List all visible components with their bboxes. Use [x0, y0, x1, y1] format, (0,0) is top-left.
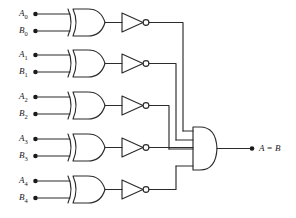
and-gate-body [193, 127, 217, 170]
xor-body-2 [73, 92, 105, 119]
wire-inv1-to-and [149, 64, 176, 141]
xor-body-0 [73, 9, 105, 36]
input-label-b1: B1 [19, 67, 28, 78]
terminal-dot-b1 [33, 70, 38, 75]
terminal-dot-a4 [33, 179, 38, 184]
input-label-b3: B3 [19, 151, 28, 162]
input-label-b2: B2 [19, 109, 28, 120]
circuit-canvas [0, 0, 296, 218]
input-label-a4: A4 [19, 176, 28, 187]
inverter-bubble-4 [143, 187, 149, 193]
inverter-body-3 [122, 138, 143, 157]
circuit-diagram: A0 B0 A1 B1 A2 B2 A3 B3 A4 B4 A = B [0, 0, 296, 218]
inverter-body-0 [122, 13, 143, 32]
terminal-dot-a2 [33, 95, 38, 100]
inverter-bubble-2 [143, 103, 149, 109]
wire-inv2-to-and [149, 106, 169, 150]
output-label: A = B [259, 143, 280, 153]
inverter-body-4 [122, 180, 143, 199]
xor-back-arc-4 [68, 176, 71, 203]
comparator-stage-3 [38, 134, 193, 161]
terminal-dot-a3 [33, 137, 38, 142]
xor-back-arc-1 [68, 50, 71, 77]
xor-back-arc-3 [68, 134, 71, 161]
input-label-a3: A3 [19, 134, 28, 145]
wire-inv0-to-and [149, 23, 183, 132]
xor-back-arc-2 [68, 92, 71, 119]
input-label-a2: A2 [19, 92, 28, 103]
input-label-a1: A1 [19, 50, 28, 61]
comparator-stage-0 [38, 9, 193, 131]
terminal-dot-output [250, 146, 255, 151]
terminal-dots [33, 12, 254, 201]
wire-inv4-to-and [149, 166, 176, 190]
comparator-stage-1 [38, 50, 193, 140]
inverter-bubble-0 [143, 20, 149, 26]
inverter-body-1 [122, 54, 143, 73]
xor-body-3 [73, 134, 105, 161]
terminal-dot-b3 [33, 154, 38, 159]
terminal-dot-b2 [33, 112, 38, 117]
inverter-body-2 [122, 96, 143, 115]
input-label-b0: B0 [19, 26, 28, 37]
terminal-dot-a1 [33, 53, 38, 58]
terminal-dot-b0 [33, 29, 38, 34]
xor-back-arc-0 [68, 9, 71, 36]
xor-body-1 [73, 50, 105, 77]
comparator-stage-4 [38, 166, 193, 203]
terminal-dot-a0 [33, 12, 38, 17]
comparator-stage-2 [38, 92, 193, 149]
terminal-dot-b4 [33, 196, 38, 201]
inverter-bubble-3 [143, 145, 149, 151]
input-label-b4: B4 [19, 193, 28, 204]
inverter-bubble-1 [143, 61, 149, 67]
and-gate [193, 127, 250, 170]
xor-body-4 [73, 176, 105, 203]
input-label-a0: A0 [19, 9, 28, 20]
